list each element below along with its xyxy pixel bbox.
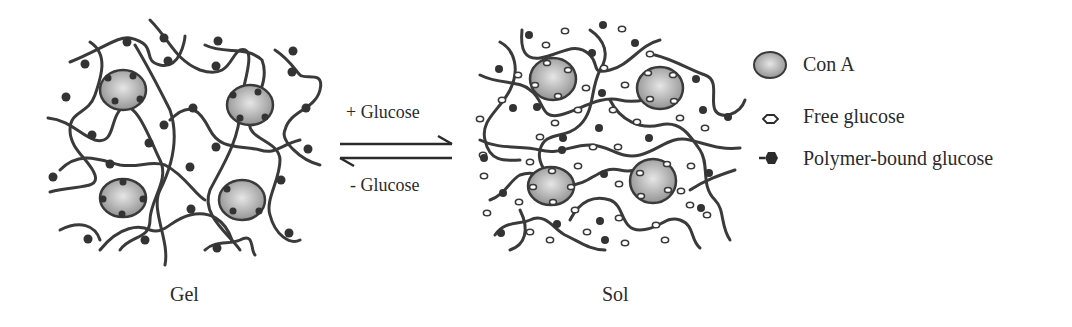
sol-con-a [528, 58, 683, 205]
gel-con-a [100, 70, 273, 220]
equilibrium-arrows [340, 136, 452, 166]
reverse-arrow-label: - Glucose [350, 176, 419, 194]
gel-network [48, 20, 321, 265]
sol-state-label: Sol [602, 284, 629, 304]
legend-item-polymer-bound-glucose: Polymer-bound glucose [803, 148, 993, 168]
gel-state-label: Gel [170, 284, 199, 304]
legend-item-free-glucose: Free glucose [803, 106, 905, 126]
legend-icons [754, 52, 786, 164]
con-a-icon [754, 52, 786, 78]
forward-arrow-label: + Glucose [346, 103, 420, 121]
legend-item-con-a: Con A [803, 54, 855, 74]
free-glucose-icon [763, 115, 778, 123]
polymer-bound-glucose-icon [765, 152, 778, 164]
